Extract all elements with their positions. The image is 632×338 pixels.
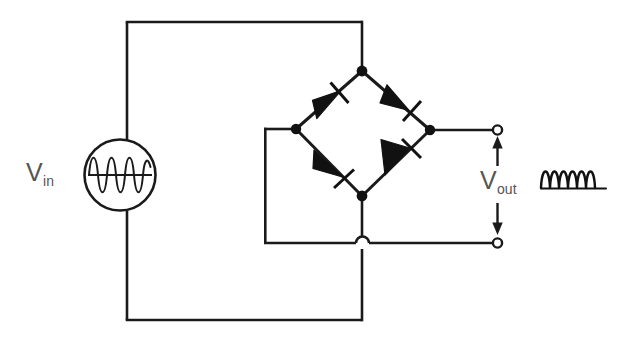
label-v-out-symbol: V [480,166,497,194]
diode-bottom-right-triangle [381,140,410,176]
label-v-in-symbol: V [26,158,43,186]
output-terminal-negative[interactable] [493,238,502,247]
node-dot-bridge-top [357,66,368,77]
node-dot-bridge-bottom [357,191,368,202]
label-v-in: Vin [26,160,54,185]
label-v-in-subscript: in [43,173,54,189]
node-dot-bridge-left [291,124,301,134]
output-wave-humps [541,172,595,189]
circuit-schematic-canvas [0,0,632,338]
diode-top-left-triangle [313,91,342,119]
output-terminal-positive[interactable] [493,125,502,134]
vout-arrow-down-head [492,223,502,236]
circuit-diagram: Vin Vout [0,0,632,338]
bridge-arm-left-bottom [296,129,362,196]
node-dot-bridge-right [425,125,435,135]
label-v-out: Vout [480,168,517,193]
rectified-output-waveform [541,172,606,189]
diode-bottom-left-triangle [313,150,343,177]
wire-crossover-hop [356,237,369,243]
vout-arrow-up-head [492,136,502,149]
label-v-out-subscript: out [497,181,517,197]
